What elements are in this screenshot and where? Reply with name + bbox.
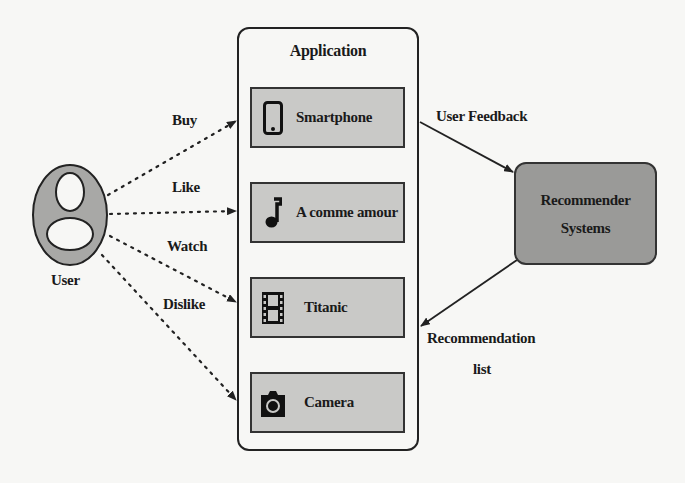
app-item-camera[interactable]: Camera: [250, 372, 405, 433]
like-arrow: [110, 211, 236, 214]
app-item-titanic[interactable]: Titanic: [250, 277, 405, 338]
film-strip-icon: [260, 290, 286, 326]
action-label-dislike: Dislike: [163, 296, 205, 313]
app-item-label: A comme amour: [296, 204, 398, 221]
recommender-line1: Recommender: [541, 186, 631, 214]
feedback-arrow: [420, 122, 513, 172]
recommender-line2: Systems: [561, 214, 611, 242]
music-note-icon: [260, 195, 286, 231]
feedback-label: User Feedback: [436, 108, 527, 125]
app-item-smartphone[interactable]: Smartphone: [250, 87, 405, 148]
app-item-label: Titanic: [304, 299, 347, 316]
app-item-a-comme-amour[interactable]: A comme amour: [250, 182, 405, 243]
recommendation-arrow: [421, 260, 517, 326]
dislike-arrow: [102, 255, 236, 400]
user-label: User: [51, 272, 80, 289]
application-title: Application: [237, 42, 419, 60]
recommender-systems-box[interactable]: Recommender Systems: [514, 162, 657, 265]
action-label-buy: Buy: [172, 112, 197, 129]
recommendation-label-line2: list: [473, 361, 491, 378]
action-label-like: Like: [172, 179, 200, 196]
action-label-watch: Watch: [167, 238, 207, 255]
app-item-label: Camera: [304, 394, 354, 411]
smartphone-icon: [260, 100, 286, 136]
recommendation-label: Recommendation: [427, 330, 535, 347]
app-item-label: Smartphone: [296, 109, 372, 126]
camera-icon: [260, 385, 286, 421]
user-icon: [33, 165, 107, 265]
